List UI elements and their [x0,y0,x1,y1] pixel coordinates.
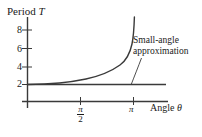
exact-period-curve [28,17,135,85]
fraction-numerator: π [75,105,86,114]
x-axis-tick-label-pi: π [129,105,140,114]
y-axis-tick-label-8: 8 [10,25,22,35]
fraction-denominator: 2 [75,115,86,124]
x-axis-title: Angle θ [150,103,182,113]
period-vs-angle-chart: Period T 8 6 4 2 π 2 π Angle θ Small-ang… [0,0,202,137]
annotation-leader-line [131,58,142,85]
x-axis-tick-label-pi-over-2: π 2 [75,105,86,125]
small-angle-annotation-line-2: approximation [133,46,188,57]
y-axis-tick-label-6: 6 [10,44,22,54]
small-angle-annotation: Small-angle approximation [133,35,188,57]
x-axis-title-text: Angle [150,102,174,113]
y-axis-tick-label-4: 4 [10,62,22,72]
plot-canvas [0,0,202,137]
y-axis-tick-label-2: 2 [10,79,22,89]
small-angle-annotation-line-1: Small-angle [133,35,188,46]
chart-title-symbol: T [38,5,44,17]
x-axis-title-symbol: θ [177,102,182,113]
chart-title: Period T [7,6,45,17]
